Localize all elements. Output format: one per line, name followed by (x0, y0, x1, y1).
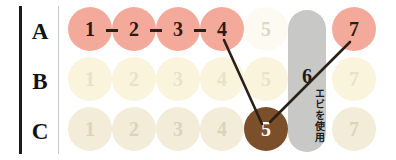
row-label-b: B (26, 70, 54, 93)
cell-a7[interactable]: 7 (332, 7, 376, 51)
row-label-c: C (26, 120, 54, 143)
column-pill-6-number: 6 (288, 66, 326, 86)
column-pill-6-vertical-note: エビを使用 (288, 88, 326, 143)
cell-c5-selected[interactable]: 5 (244, 107, 288, 151)
cell-b1[interactable]: 1 (68, 57, 112, 101)
connector-a2-a3 (150, 29, 162, 32)
cell-c7[interactable]: 7 (332, 107, 376, 151)
cell-c2[interactable]: 2 (112, 107, 156, 151)
cell-c1[interactable]: 1 (68, 107, 112, 151)
axis-rule-thin (58, 6, 59, 154)
cell-b4[interactable]: 4 (200, 57, 244, 101)
cell-a5[interactable]: 5 (244, 7, 288, 51)
diagram-canvas: A B C 6 エビを使用 1 2 3 4 5 7 1 2 3 4 5 7 1 … (0, 0, 396, 160)
cell-b5[interactable]: 5 (244, 57, 288, 101)
connector-a1-a2 (106, 29, 118, 32)
cell-b2[interactable]: 2 (112, 57, 156, 101)
cell-c3[interactable]: 3 (156, 107, 200, 151)
axis-rule-thick (19, 6, 22, 154)
row-label-a: A (26, 20, 54, 43)
cell-b7[interactable]: 7 (332, 57, 376, 101)
cell-c4[interactable]: 4 (200, 107, 244, 151)
connector-a3-a4 (194, 29, 206, 32)
cell-b3[interactable]: 3 (156, 57, 200, 101)
cell-a4[interactable]: 4 (200, 7, 244, 51)
